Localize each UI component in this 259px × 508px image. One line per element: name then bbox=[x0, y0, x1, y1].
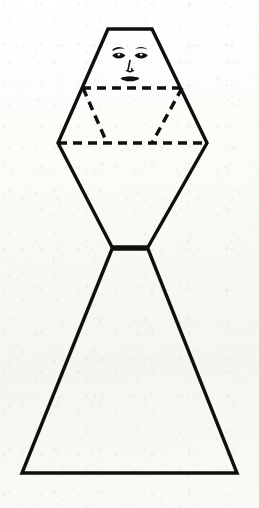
right-eye-highlight bbox=[140, 54, 143, 56]
solid-outline-group bbox=[22, 29, 237, 473]
left-eye-highlight bbox=[117, 54, 120, 56]
right-diagonal-dashed-line bbox=[152, 88, 182, 143]
lower-triangle-outline bbox=[22, 249, 237, 473]
left-diagonal-dashed-line bbox=[83, 88, 107, 143]
dashed-construction-group bbox=[58, 88, 207, 248]
nose-icon bbox=[128, 61, 132, 72]
figure-canvas bbox=[0, 0, 259, 508]
face-group bbox=[112, 47, 148, 81]
upper-hexagon-outline bbox=[58, 29, 207, 247]
left-eyebrow-icon bbox=[113, 47, 125, 51]
right-eyebrow-icon bbox=[135, 47, 147, 50]
geometric-figure-drawing bbox=[0, 0, 259, 508]
